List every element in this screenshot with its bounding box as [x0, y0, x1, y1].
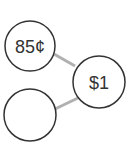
node-whole-label: $1 — [89, 73, 109, 93]
node-part2[interactable] — [4, 89, 56, 141]
node-part1: 85¢ — [5, 21, 55, 71]
edge-part1-to-whole — [54, 54, 75, 66]
node-whole: $1 — [73, 56, 125, 108]
number-bond-diagram: 85¢ $1 — [0, 0, 133, 148]
node-part1-label: 85¢ — [15, 37, 45, 57]
edge-part2-to-whole — [55, 98, 78, 109]
